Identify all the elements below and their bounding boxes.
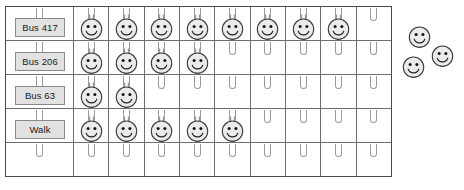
board-cell[interactable] [321,75,356,108]
board-cell[interactable] [286,75,321,108]
smiley-face-icon[interactable] [113,48,140,75]
hook-icon [264,110,271,123]
route-label-1[interactable]: Bus 417 [15,18,65,37]
smiley-face-icon[interactable] [148,14,175,41]
smiley-face-icon[interactable] [429,41,456,68]
hook-icon [194,76,201,89]
board-row: Walk [6,109,391,143]
board-cell[interactable] [215,75,250,108]
route-label-3[interactable]: Bus 63 [15,86,65,105]
smiley-face-icon[interactable] [219,116,246,143]
board-cell[interactable] [145,75,180,108]
hook-icon [335,110,342,123]
hook-icon [123,144,130,157]
board-cell[interactable] [180,7,215,40]
smiley-face-icon[interactable] [113,116,140,143]
board-cell[interactable] [180,143,215,176]
board-cell[interactable] [109,109,144,142]
unplaced-token-zone [398,22,460,92]
board-cell[interactable] [286,109,321,142]
hook-icon [88,144,95,157]
smiley-face-icon[interactable] [254,14,281,41]
smiley-face-icon[interactable] [78,116,105,143]
board-cell[interactable] [251,41,286,74]
smiley-face-icon[interactable] [290,14,317,41]
board-cell[interactable] [286,41,321,74]
board-cell[interactable] [109,7,144,40]
board-cell[interactable] [180,75,215,108]
board-cell[interactable] [357,143,391,176]
hook-icon [158,144,165,157]
hook-icon [229,144,236,157]
board-cell[interactable] [286,143,321,176]
hook-icon [370,42,377,55]
board-cell[interactable] [251,143,286,176]
hook-icon [264,76,271,89]
smiley-face-icon[interactable] [78,82,105,109]
hook-icon [335,42,342,55]
route-label-4[interactable]: Walk [15,120,65,139]
row-label-cell [6,143,74,176]
board-cell[interactable] [109,75,144,108]
board-cell[interactable] [357,41,391,74]
board-cell[interactable] [180,109,215,142]
hook-icon [229,42,236,55]
hook-icon [370,110,377,123]
board-cell[interactable] [145,41,180,74]
board-cell[interactable] [74,109,109,142]
hook-icon [264,144,271,157]
board-cell[interactable] [109,143,144,176]
hook-icon [300,144,307,157]
board-row: Bus 206 [6,41,391,75]
hook-icon [264,42,271,55]
board-cell[interactable] [215,143,250,176]
board-cell[interactable] [74,143,109,176]
board-cell[interactable] [145,143,180,176]
board-cell[interactable] [286,7,321,40]
board-row: Bus 417 [6,7,391,41]
board-cell[interactable] [180,41,215,74]
hook-icon [300,110,307,123]
board-cell[interactable] [74,75,109,108]
smiley-face-icon[interactable] [113,14,140,41]
board-cell[interactable] [251,75,286,108]
hook-icon [300,42,307,55]
board-cell[interactable] [357,75,391,108]
hook-icon [335,144,342,157]
smiley-face-icon[interactable] [184,14,211,41]
board-cell[interactable] [145,109,180,142]
board-row [6,143,391,176]
route-label-2[interactable]: Bus 206 [15,52,65,71]
board-cell[interactable] [215,41,250,74]
board-cell[interactable] [74,7,109,40]
smiley-face-icon[interactable] [148,48,175,75]
row-label-cell: Bus 417 [6,7,74,40]
hook-icon [158,76,165,89]
board-cell[interactable] [321,41,356,74]
board-cell[interactable] [215,109,250,142]
board-cell[interactable] [321,7,356,40]
smiley-face-icon[interactable] [113,82,140,109]
board-row: Bus 63 [6,75,391,109]
smiley-face-icon[interactable] [184,116,211,143]
smiley-face-icon[interactable] [400,52,427,79]
board-cell[interactable] [321,143,356,176]
hook-icon [300,76,307,89]
board-cell[interactable] [74,41,109,74]
board-cell[interactable] [251,109,286,142]
board-cell[interactable] [357,109,391,142]
board-cell[interactable] [215,7,250,40]
smiley-face-icon[interactable] [78,14,105,41]
smiley-face-icon[interactable] [148,116,175,143]
board-cell[interactable] [145,7,180,40]
hook-icon [370,8,377,21]
board-cell[interactable] [321,109,356,142]
board-cell[interactable] [251,7,286,40]
board-cell[interactable] [109,41,144,74]
board-cell[interactable] [357,7,391,40]
smiley-face-icon[interactable] [219,14,246,41]
smiley-face-icon[interactable] [78,48,105,75]
smiley-face-icon[interactable] [325,14,352,41]
smiley-face-icon[interactable] [184,48,211,75]
hook-icon [370,144,377,157]
